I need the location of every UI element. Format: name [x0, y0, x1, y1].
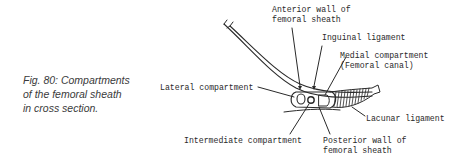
label-posterior-wall: Posterior wall of femoral sheath [323, 136, 407, 156]
intermediate-compartment-shape [308, 97, 314, 103]
label-lacunar-ligament: Lacunar ligament [366, 114, 445, 124]
label-anterior-wall-line2: femoral sheath [272, 15, 351, 25]
leader-posterior-wall [319, 107, 330, 134]
label-intermediate-compartment: Intermediate compartment [184, 136, 302, 146]
label-posterior-line1: Posterior wall of [323, 136, 407, 146]
leader-lacunar-ligament [352, 107, 365, 116]
label-medial-line1: Medial compartment [340, 51, 428, 61]
leader-inguinal-ligament [314, 46, 322, 86]
medial-compartment-shape [319, 95, 329, 106]
label-anterior-wall: Anterior wall of femoral sheath [272, 5, 351, 25]
label-anterior-wall-line1: Anterior wall of [272, 5, 351, 15]
leader-anterior-wall [292, 28, 300, 86]
leader-intermediate-compartment [290, 104, 309, 134]
label-inguinal-ligament: Inguinal ligament [322, 33, 406, 43]
label-posterior-line2: femoral sheath [323, 146, 407, 156]
leader-lateral-compartment [258, 87, 294, 97]
label-lateral-compartment: Lateral compartment [160, 83, 253, 93]
label-medial-compartment: Medial compartment (Femoral canal) [340, 51, 428, 71]
lateral-compartment-shape [297, 94, 305, 104]
label-medial-line2: (Femoral canal) [340, 61, 428, 71]
